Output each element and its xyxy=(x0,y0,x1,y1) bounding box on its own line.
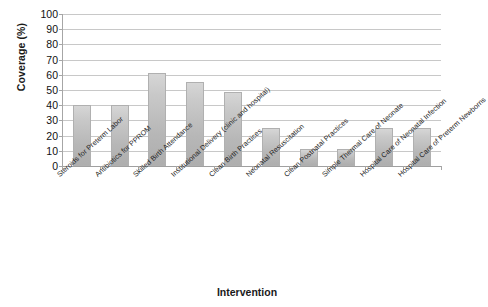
y-tick-label: 80 xyxy=(26,39,58,50)
x-axis-category-labels: Steroids for Preterm LaborAntibiotics fo… xyxy=(0,170,454,270)
y-tick-label: 100 xyxy=(26,9,58,20)
y-tick-label: 70 xyxy=(26,54,58,65)
y-tick-label: 10 xyxy=(26,146,58,157)
y-tick-label: 90 xyxy=(26,24,58,35)
x-axis-title: Intervention xyxy=(0,286,454,298)
y-tick-label: 40 xyxy=(26,100,58,111)
y-tick-label: 20 xyxy=(26,130,58,141)
y-tick-label: 60 xyxy=(26,70,58,81)
y-axis-tick-labels: 1009080706050403020100 xyxy=(26,14,58,166)
y-tick-label: 30 xyxy=(26,115,58,126)
y-tick-label: 50 xyxy=(26,85,58,96)
